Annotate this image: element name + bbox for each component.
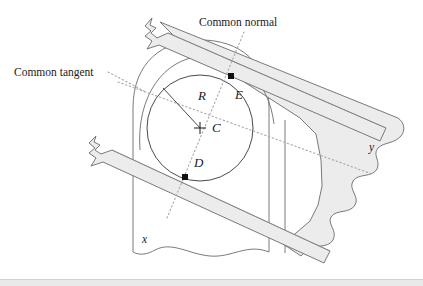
- figure-canvas: Common normal Common tangent R C E D x y: [0, 0, 423, 286]
- center-label: C: [212, 120, 221, 136]
- contact-point-d-label: D: [194, 155, 203, 171]
- common-normal-label: Common normal: [199, 16, 277, 28]
- body-x-label: x: [142, 233, 147, 245]
- common-tangent-label: Common tangent: [14, 66, 94, 78]
- footer-rule: [0, 279, 423, 286]
- contact-point-d-marker: [182, 174, 188, 180]
- diagram-svg: [0, 0, 423, 286]
- body-y-label: y: [369, 141, 374, 153]
- radius-label: R: [198, 88, 206, 104]
- contact-point-e-label: E: [235, 87, 243, 103]
- contact-point-e-marker: [228, 73, 234, 79]
